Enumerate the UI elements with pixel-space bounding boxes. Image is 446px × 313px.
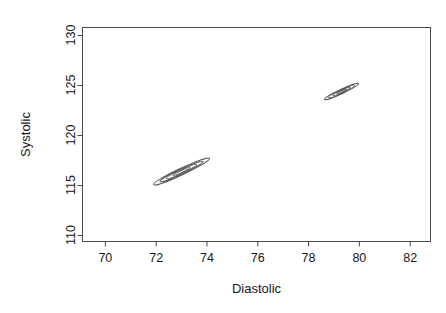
contour-ring bbox=[328, 84, 355, 99]
plot-frame bbox=[83, 28, 431, 242]
x-tick-label: 72 bbox=[136, 251, 176, 265]
x-tick-label: 82 bbox=[390, 251, 430, 265]
y-tick-label: 125 bbox=[64, 65, 78, 105]
contour-ring bbox=[332, 86, 351, 96]
y-axis-title: Systolic bbox=[18, 74, 33, 194]
y-tick-label: 120 bbox=[64, 115, 78, 155]
y-tick-label: 115 bbox=[64, 165, 78, 205]
contour-cluster bbox=[152, 155, 211, 187]
x-tick-label: 78 bbox=[289, 251, 329, 265]
figure-canvas: 70727476788082110115120125130 Diastolic … bbox=[0, 0, 446, 313]
x-tick-label: 76 bbox=[238, 251, 278, 265]
x-axis-title: Diastolic bbox=[197, 281, 317, 296]
contour-ring bbox=[324, 82, 360, 102]
y-tick-label: 110 bbox=[64, 215, 78, 255]
contour-ring bbox=[159, 159, 204, 184]
x-tick-label: 74 bbox=[187, 251, 227, 265]
x-tick-label: 70 bbox=[85, 251, 125, 265]
y-tick-label: 130 bbox=[64, 15, 78, 55]
contour-ring bbox=[166, 163, 198, 180]
x-tick-label: 80 bbox=[339, 251, 379, 265]
contour-cluster bbox=[324, 82, 360, 102]
contour-ring bbox=[152, 155, 211, 187]
